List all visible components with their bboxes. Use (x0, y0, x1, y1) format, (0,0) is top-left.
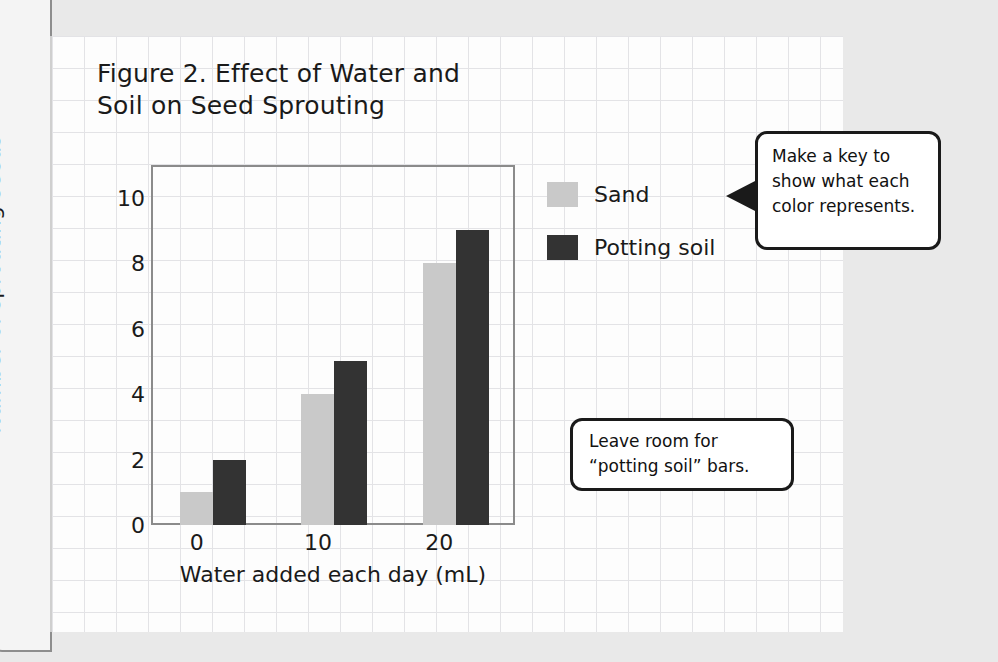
chart-legend: SandPotting soil (547, 182, 715, 288)
callout-leave-room: Leave room for “potting soil” bars. (570, 418, 794, 491)
x-axis-title: Water added each day (mL) (151, 562, 515, 587)
page-binder-edge (0, 0, 52, 652)
y-tick-label: 0 (105, 513, 145, 538)
callout-make-a-key: Make a key to show what each color repre… (755, 131, 941, 250)
legend-item-sand: Sand (547, 182, 715, 207)
legend-swatch-icon (547, 235, 578, 260)
bar-sand-0 (180, 492, 213, 525)
y-tick-label: 10 (105, 185, 145, 210)
legend-item-potting-soil: Potting soil (547, 235, 715, 260)
bar-potting-soil-20 (456, 230, 489, 525)
x-axis-tick-labels: 01020 (151, 530, 515, 560)
callout-1-line-2: show what each (772, 169, 928, 194)
figure-title-line-2: Soil on Seed Sprouting (97, 90, 567, 122)
bar-series-layer (151, 165, 515, 525)
y-axis-tick-labels: 0246810 (101, 165, 145, 525)
y-tick-label: 2 (105, 447, 145, 472)
bar-potting-soil-0 (213, 460, 246, 525)
callout-2-line-1: Leave room for (589, 429, 781, 454)
callout-1-line-3: color represents. (772, 194, 928, 219)
legend-label: Potting soil (594, 235, 715, 260)
bar-potting-soil-10 (334, 361, 367, 525)
legend-label: Sand (594, 182, 649, 207)
x-tick-label: 0 (167, 530, 227, 555)
y-axis-title: Number of sprouting seeds (0, 75, 5, 495)
callout-pointer-icon (726, 180, 757, 212)
figure-page: Figure 2. Effect of Water and Soil on Se… (0, 0, 998, 662)
x-tick-label: 10 (288, 530, 348, 555)
bar-sand-20 (423, 263, 456, 525)
x-tick-label: 20 (409, 530, 469, 555)
callout-1-line-1: Make a key to (772, 144, 928, 169)
figure-title: Figure 2. Effect of Water and Soil on Se… (97, 58, 567, 122)
legend-swatch-icon (547, 182, 578, 207)
bar-sand-10 (301, 394, 334, 525)
y-tick-label: 8 (105, 251, 145, 276)
figure-title-line-1: Figure 2. Effect of Water and (97, 58, 567, 90)
callout-2-line-2: “potting soil” bars. (589, 454, 781, 479)
y-tick-label: 4 (105, 382, 145, 407)
y-tick-label: 6 (105, 316, 145, 341)
